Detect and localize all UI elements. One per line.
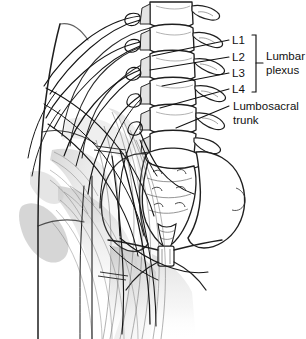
vertebra-L3 xyxy=(150,77,196,108)
label-l1: L1 xyxy=(232,34,245,46)
label-l2: L2 xyxy=(232,51,245,63)
label-l3: L3 xyxy=(232,67,245,79)
label-l4: L4 xyxy=(232,83,245,95)
label-lumbar-plexus-line1: Lumbar xyxy=(266,50,305,62)
label-lumbar-plexus-line2: plexus xyxy=(266,64,299,76)
label-lumbosacral-trunk-line2: trunk xyxy=(233,114,259,126)
anatomical-illustration: L1 L2 L3 L4 Lumbar plexus Lumbosacral tr… xyxy=(0,0,306,339)
vertebra-L4 xyxy=(150,104,196,134)
label-lumbosacral-trunk-line1: Lumbosacral xyxy=(233,100,299,112)
pubic-symphysis xyxy=(158,246,174,266)
vertebra-L1 xyxy=(150,24,194,54)
